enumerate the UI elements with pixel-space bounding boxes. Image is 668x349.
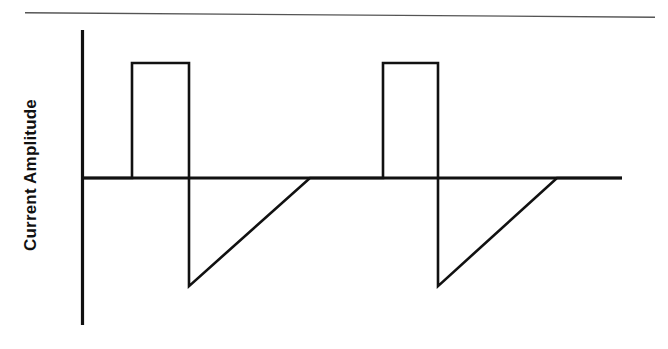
current-waveform-trace: [82, 63, 622, 286]
chart-figure: Current Amplitude: [0, 0, 668, 349]
upper-reference-line: [25, 13, 655, 18]
waveform-plot: [0, 0, 668, 349]
